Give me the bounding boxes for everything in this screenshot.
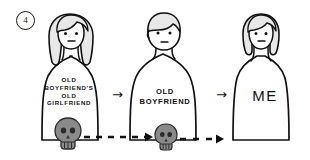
figure-3-eye-right [265,32,268,35]
panel-number-badge: 4 [16,11,35,30]
skull-icon-2 [155,124,177,150]
figure-1-label: OLD BOYFRIEND'S OLD GIRLFRIEND [38,76,100,107]
figure-1-eye-left [64,32,67,35]
figure-2-eye-right [169,32,172,35]
comic-panel: 4 → → OLD BOYFRIEND'S OLD GIRLFRIEND OLD… [0,0,310,160]
skull-2-eye-left [160,132,165,137]
figure-2 [130,13,196,140]
skull-2-eye-right [167,132,172,137]
figure-2-label: OLD BOYFRIEND [130,87,200,106]
right-arrow-icon-2: → [216,88,227,101]
dashed-arrow-2-head [216,135,224,144]
skull-1-eye-left [61,128,66,134]
figure-3-eye-left [255,32,258,35]
skull-1-eye-right [70,128,75,134]
figure-2-eye-left [157,32,160,35]
figure-3 [233,14,289,140]
figure-1-eye-right [75,32,78,35]
skull-icon-1 [55,118,81,149]
figure-3-label: ME [242,86,288,105]
right-arrow-icon-1: → [112,88,123,101]
